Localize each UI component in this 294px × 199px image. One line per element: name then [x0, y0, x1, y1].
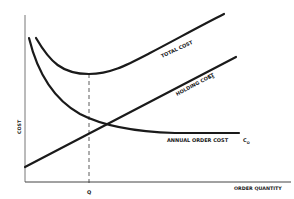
- q-tick-label: Q: [87, 189, 91, 195]
- holding-cost-line: [25, 57, 236, 167]
- y-axis-label: COST: [17, 119, 22, 134]
- order-symbol-sub: O: [247, 141, 250, 145]
- total-cost-curve: [36, 14, 224, 74]
- order-cost-symbol: CO: [243, 137, 250, 145]
- holding-symbol-sub: S: [211, 75, 216, 80]
- total-cost-label: TOTAL COST: [160, 39, 194, 59]
- eoq-cost-chart: TOTAL COST HOLDING COST CS ANNUAL ORDER …: [0, 0, 294, 199]
- order-cost-label: ANNUAL ORDER COST: [167, 137, 229, 143]
- order-cost-curve: [29, 38, 239, 133]
- x-axis-label: ORDER QUANTITY: [234, 186, 282, 191]
